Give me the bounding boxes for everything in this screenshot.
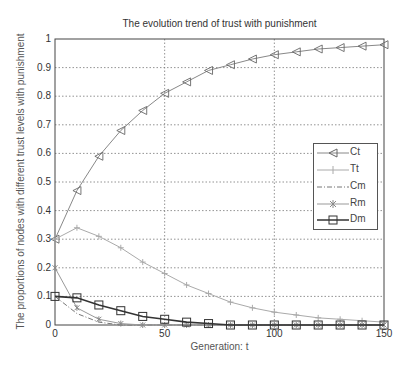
y-tick-label: 0.3 bbox=[37, 233, 51, 244]
x-axis-label: Generation: t bbox=[55, 341, 384, 352]
y-tick-label: 0.2 bbox=[37, 262, 51, 273]
legend-item-ct: Ct bbox=[314, 145, 377, 161]
y-tick-label: 0.9 bbox=[37, 62, 51, 73]
square-marker-icon bbox=[317, 214, 349, 226]
triangle-marker-icon bbox=[317, 147, 349, 159]
legend-item-tt: Tt bbox=[314, 162, 377, 178]
star-marker-icon bbox=[317, 198, 349, 210]
y-tick-label: 0.7 bbox=[37, 119, 51, 130]
chart-title: The evolution trend of trust with punish… bbox=[55, 18, 384, 29]
y-tick-label: 0.4 bbox=[37, 205, 51, 216]
legend: Ct Tt Cm Rm Dm bbox=[313, 143, 378, 230]
y-tick-label: 0.1 bbox=[37, 290, 51, 301]
plus-marker-icon bbox=[317, 164, 349, 176]
y-tick-label: 0.6 bbox=[37, 147, 51, 158]
x-tick-label: 150 bbox=[374, 328, 394, 339]
x-tick-label: 0 bbox=[45, 328, 65, 339]
y-tick-label: 0.5 bbox=[37, 176, 51, 187]
x-tick-label: 50 bbox=[155, 328, 175, 339]
dash-dot-line-icon bbox=[317, 181, 349, 193]
series-line-tt bbox=[55, 228, 384, 322]
legend-item-dm: Dm bbox=[314, 212, 377, 228]
y-axis-label: The proportions of nodes with different … bbox=[15, 22, 26, 342]
y-tick-label: 1 bbox=[45, 33, 51, 44]
y-tick-label: 0.8 bbox=[37, 90, 51, 101]
legend-item-rm: Rm bbox=[314, 196, 377, 212]
x-tick-label: 100 bbox=[264, 328, 284, 339]
legend-item-cm: Cm bbox=[314, 179, 377, 195]
